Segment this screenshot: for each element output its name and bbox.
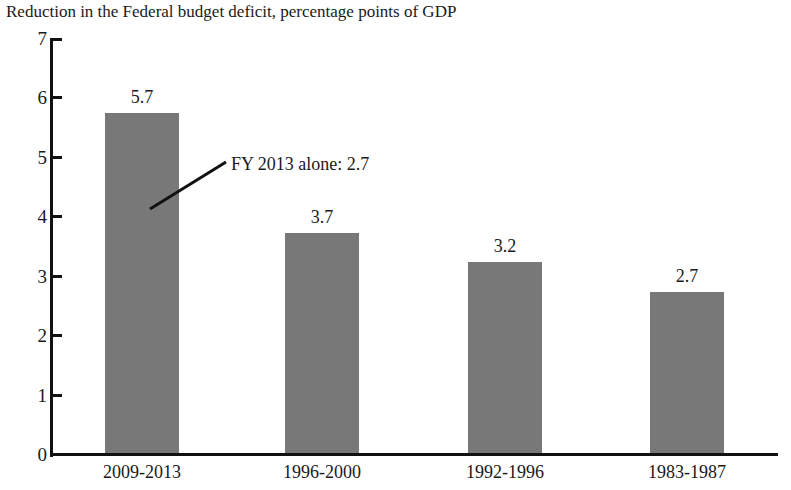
y-tick-mark-7 — [53, 38, 62, 41]
y-tick-mark-2 — [53, 334, 62, 337]
x-category-label-1992-1996: 1992-1996 — [445, 462, 565, 482]
y-tick-label-5: 5 — [17, 148, 47, 167]
annotation-fy2013: FY 2013 alone: 2.7 — [231, 154, 369, 174]
plot-area: 0 1 2 3 4 5 6 7 5.7 3.7 3.2 2.7 FY 2013 … — [0, 0, 791, 490]
bar-1996-2000 — [285, 233, 359, 453]
bar-value-label-2009-2013: 5.7 — [105, 88, 179, 106]
x-category-label-2009-2013: 2009-2013 — [82, 462, 202, 482]
y-tick-label-0: 0 — [17, 445, 47, 464]
y-tick-label-4: 4 — [17, 207, 47, 226]
y-tick-mark-0 — [53, 453, 62, 456]
x-category-label-1996-2000: 1996-2000 — [262, 462, 382, 482]
bar-1992-1996 — [468, 262, 542, 453]
y-tick-mark-6 — [53, 96, 62, 99]
bar-chart: Reduction in the Federal budget deficit,… — [0, 0, 791, 490]
y-tick-label-2: 2 — [17, 326, 47, 345]
bar-value-label-1996-2000: 3.7 — [285, 208, 359, 226]
y-tick-label-1: 1 — [17, 386, 47, 405]
y-tick-label-3: 3 — [17, 267, 47, 286]
bar-1983-1987 — [650, 292, 724, 453]
y-tick-label-7: 7 — [17, 29, 47, 48]
y-tick-mark-5 — [53, 156, 62, 159]
y-tick-mark-3 — [53, 275, 62, 278]
x-axis-line — [50, 453, 778, 456]
bar-value-label-1992-1996: 3.2 — [468, 237, 542, 255]
bar-value-label-1983-1987: 2.7 — [650, 267, 724, 285]
y-tick-mark-1 — [53, 394, 62, 397]
x-category-label-1983-1987: 1983-1987 — [627, 462, 747, 482]
y-tick-label-6: 6 — [17, 88, 47, 107]
bar-2009-2013 — [105, 113, 179, 453]
y-tick-mark-4 — [53, 215, 62, 218]
